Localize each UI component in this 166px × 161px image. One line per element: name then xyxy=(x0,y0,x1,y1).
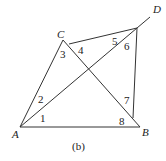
segment-AD xyxy=(20,17,150,127)
angle-label-3: 3 xyxy=(60,48,66,60)
vertex-label-D: D xyxy=(152,3,161,15)
segment-D-vertical xyxy=(133,28,137,118)
angle-label-4: 4 xyxy=(78,44,84,56)
angle-label-2: 2 xyxy=(38,93,44,105)
vertex-label-B: B xyxy=(142,126,149,138)
angle-label-5: 5 xyxy=(112,35,118,47)
angle-label-7: 7 xyxy=(124,94,130,106)
figure-caption: (b) xyxy=(72,140,85,153)
geometry-diagram: A B C D 1 2 3 4 5 6 7 8 (b) xyxy=(0,0,166,161)
angle-label-6: 6 xyxy=(124,40,130,52)
segment-CB xyxy=(63,40,140,127)
angle-label-1: 1 xyxy=(40,112,46,124)
angle-label-8: 8 xyxy=(119,115,125,127)
vertex-label-A: A xyxy=(11,128,19,140)
vertex-label-C: C xyxy=(57,28,65,40)
